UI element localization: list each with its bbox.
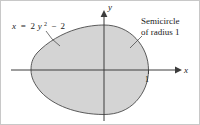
equation-lhs: x [11,21,16,31]
equation-variable: y [37,21,42,31]
figure-svg: x y 1 x = 2 y 2 − 2 Semicircle of radius… [1,1,200,125]
y-axis-arrowhead [101,10,108,17]
semicircle-label-line2: of radius 1 [141,27,180,37]
equation-minus: − [51,21,56,31]
parabola-equation-label: x = 2 y 2 − 2 [11,18,65,32]
x-axis-arrowhead [175,67,182,74]
equation-equals: = [21,21,26,31]
x-axis-label: x [183,65,188,75]
semicircle-label-line1: Semicircle [141,16,179,26]
y-axis-label: y [107,2,112,12]
equation-coefficient: 2 [31,21,36,31]
equation-constant: 2 [60,21,65,31]
equation-exponent: 2 [44,21,47,27]
x-tick-label-1: 1 [145,75,149,84]
figure-container: x y 1 x = 2 y 2 − 2 Semicircle of radius… [0,0,200,125]
